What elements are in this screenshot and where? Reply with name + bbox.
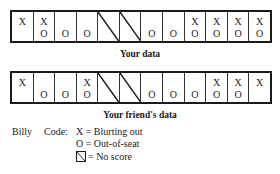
observation-cell: X	[12, 73, 34, 102]
observation-cell: O	[77, 12, 99, 41]
out-of-seat-mark: O	[206, 29, 227, 39]
out-of-seat-mark: O	[34, 90, 55, 100]
your-data-caption: Your data	[0, 49, 280, 59]
out-of-seat-mark: O	[185, 90, 206, 100]
observation-cell: XO	[206, 73, 228, 102]
legend-x: X = Blurting out	[76, 126, 142, 137]
out-of-seat-mark: O	[77, 29, 98, 39]
your-data-grid: XXOOOOOXOXOXOXO	[10, 10, 272, 43]
friend-data-caption: Your friend's data	[0, 110, 280, 120]
observation-cell: O	[55, 73, 77, 102]
observation-cell: O	[185, 73, 207, 102]
no-score-slash-icon	[98, 73, 119, 102]
blurting-mark: X	[249, 78, 270, 88]
blurting-mark: X	[228, 17, 249, 27]
observation-cell: O	[163, 73, 185, 102]
no-score-cell	[98, 73, 120, 102]
observation-cell: O	[55, 12, 77, 41]
observation-cell: XO	[206, 12, 228, 41]
observation-cell: X	[249, 73, 270, 102]
blurting-mark: X	[228, 78, 249, 88]
observation-cell: XO	[34, 12, 56, 41]
no-score-slash-icon	[98, 12, 119, 41]
out-of-seat-mark: O	[77, 90, 98, 100]
observation-cell: X	[12, 12, 34, 41]
observation-cell: O	[141, 12, 163, 41]
no-score-slash-icon	[120, 12, 141, 41]
out-of-seat-mark: O	[163, 29, 184, 39]
observation-cell: XO	[228, 73, 250, 102]
legend-no-score: = No score	[88, 151, 132, 162]
observation-cell: XO	[77, 73, 99, 102]
blurting-mark: X	[249, 17, 270, 27]
out-of-seat-mark: O	[249, 29, 270, 39]
no-score-cell	[120, 12, 142, 41]
blurting-mark: X	[34, 17, 55, 27]
no-score-icon	[76, 151, 86, 162]
out-of-seat-mark: O	[163, 90, 184, 100]
no-score-cell	[98, 12, 120, 41]
friend-data-grid: XOOXOOOOXOXOX	[10, 71, 272, 104]
observation-cell: O	[141, 73, 163, 102]
out-of-seat-mark: O	[206, 90, 227, 100]
out-of-seat-mark: O	[228, 90, 249, 100]
observation-cell: XO	[228, 12, 250, 41]
blurting-mark: X	[77, 78, 98, 88]
student-name: Billy	[12, 126, 32, 137]
no-score-slash-icon	[120, 73, 141, 102]
observation-cell: XO	[249, 12, 270, 41]
blurting-mark: X	[12, 17, 33, 27]
out-of-seat-mark: O	[55, 29, 76, 39]
blurting-mark: X	[206, 17, 227, 27]
observation-cell: O	[34, 73, 56, 102]
no-score-cell	[120, 73, 142, 102]
legend-o: O = Out-of-seat	[76, 138, 139, 149]
out-of-seat-mark: O	[141, 90, 162, 100]
out-of-seat-mark: O	[55, 90, 76, 100]
out-of-seat-mark: O	[228, 29, 249, 39]
blurting-mark: X	[12, 78, 33, 88]
observation-cell: XO	[185, 12, 207, 41]
observation-cell: O	[163, 12, 185, 41]
blurting-mark: X	[206, 78, 227, 88]
out-of-seat-mark: O	[141, 29, 162, 39]
out-of-seat-mark: O	[185, 29, 206, 39]
blurting-mark: X	[185, 17, 206, 27]
code-label: Code:	[44, 126, 68, 137]
out-of-seat-mark: O	[34, 29, 55, 39]
